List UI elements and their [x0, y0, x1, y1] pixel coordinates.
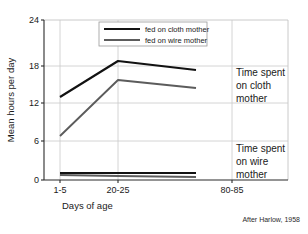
- x-tick-label-1-5: 1-5: [53, 185, 66, 195]
- x-tick-label-20-25: 20-25: [106, 185, 129, 195]
- annotation-cloth-line1: Time spent: [236, 67, 285, 78]
- y-tick-label-12: 12: [29, 98, 39, 108]
- y-axis-title: Mean hours per day: [5, 58, 16, 143]
- y-tick-label-18: 18: [29, 61, 39, 71]
- annotation-wire-line1: Time spent: [236, 143, 285, 154]
- legend-label-cloth: fed on cloth mother: [145, 25, 210, 34]
- x-axis-title: Days of age: [62, 200, 113, 211]
- legend-label-wire: fed on wire mother: [145, 36, 208, 45]
- y-tick-label-24: 24: [29, 15, 39, 25]
- x-tick-label-80-85: 80-85: [220, 185, 243, 195]
- series-line-wire-lower: [60, 175, 196, 177]
- harlow-attachment-chart: 24 18 12 6 0 1-5 20-25 80-85 Days of age…: [0, 0, 308, 234]
- annotation-cloth-line2: on cloth: [236, 80, 271, 91]
- annotation-wire-line2: on wire: [236, 156, 269, 167]
- chart-canvas: 24 18 12 6 0 1-5 20-25 80-85 Days of age…: [0, 0, 308, 234]
- series-line-wire-upper: [60, 80, 196, 136]
- source-credit: After Harlow, 1958: [242, 216, 300, 223]
- y-tick-label-6: 6: [34, 136, 39, 146]
- annotation-wire-line3: mother: [236, 169, 268, 180]
- y-tick-label-0: 0: [34, 175, 39, 185]
- annotation-cloth-line3: mother: [236, 93, 268, 104]
